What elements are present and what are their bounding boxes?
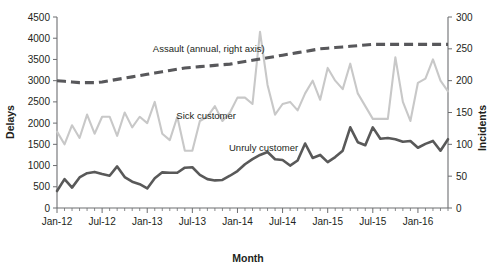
x-axis-ticks-group: Jan-12Jul-12Jan-13Jul-13Jan-14Jul-14Jan-… — [42, 208, 448, 227]
left-axis-tick-label: 2000 — [28, 118, 51, 129]
right-axis-tick-label: 300 — [456, 12, 473, 23]
x-axis-tick-label: Jan-16 — [403, 216, 434, 227]
x-axis-tick-label: Jul-15 — [359, 216, 387, 227]
left-axis-tick-label: 4000 — [28, 33, 51, 44]
delays-incidents-chart: 050010001500200025003000350040004500 050… — [0, 0, 498, 268]
left-axis-ticks-group: 050010001500200025003000350040004500 — [28, 12, 57, 214]
x-axis-tick-label: Jul-14 — [269, 216, 297, 227]
series-annotation-label: Assault (annual, right axis) — [153, 43, 265, 54]
data-series-group — [57, 32, 448, 191]
right-axis-tick-label: 50 — [456, 171, 468, 182]
left-axis-tick-label: 3500 — [28, 54, 51, 65]
left-axis-tick-label: 0 — [44, 203, 50, 214]
x-axis-tick-label: Jul-13 — [179, 216, 207, 227]
right-axis-ticks-group: 050100150200250300 — [448, 12, 473, 214]
right-axis-tick-label: 250 — [456, 43, 473, 54]
series-line-unruly — [57, 127, 448, 191]
y2-axis-title: Incidents — [476, 105, 488, 151]
left-axis-tick-label: 2500 — [28, 96, 51, 107]
x-axis-tick-label: Jan-14 — [222, 216, 253, 227]
left-axis-tick-label: 4500 — [28, 12, 51, 23]
series-annotation-label: Unruly customer — [229, 142, 298, 153]
chart-canvas: 050010001500200025003000350040004500 050… — [0, 0, 498, 268]
right-axis-tick-label: 150 — [456, 107, 473, 118]
x-axis-tick-label: Jul-12 — [88, 216, 116, 227]
series-annotation-label: Sick customer — [176, 110, 236, 121]
y-axis-title: Delays — [4, 105, 16, 139]
right-axis-tick-label: 200 — [456, 75, 473, 86]
x-axis-tick-label: Jan-12 — [42, 216, 73, 227]
right-axis-tick-label: 0 — [456, 203, 462, 214]
left-axis-tick-label: 1000 — [28, 160, 51, 171]
x-axis-tick-label: Jan-15 — [312, 216, 343, 227]
x-axis-tick-label: Jan-13 — [132, 216, 163, 227]
left-axis-tick-label: 500 — [33, 181, 50, 192]
left-axis-tick-label: 3000 — [28, 75, 51, 86]
x-axis-title: Month — [232, 252, 264, 264]
left-axis-tick-label: 1500 — [28, 139, 51, 150]
series-annotations-group: Assault (annual, right axis)Sick custome… — [153, 43, 298, 152]
right-axis-tick-label: 100 — [456, 139, 473, 150]
